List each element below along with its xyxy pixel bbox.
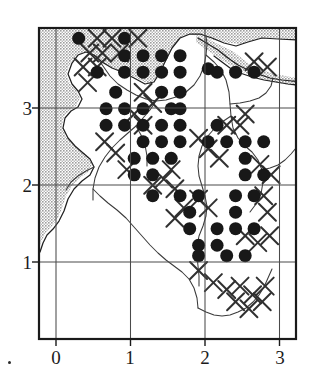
record-dot <box>220 135 233 148</box>
record-dot <box>220 249 233 262</box>
record-dot <box>128 168 141 181</box>
record-dot <box>118 119 131 132</box>
record-dot <box>229 222 242 235</box>
record-dot <box>137 119 150 132</box>
record-dot <box>174 189 187 202</box>
record-dot <box>229 189 242 202</box>
record-dot <box>239 249 252 262</box>
record-dot <box>257 135 270 148</box>
record-dot <box>211 222 224 235</box>
record-dot <box>192 189 205 202</box>
record-dot <box>137 49 150 62</box>
record-dot <box>248 189 261 202</box>
y-tick-label-1: 1 <box>12 253 32 272</box>
y-tick-label-2: 2 <box>12 176 32 195</box>
record-dot <box>257 168 270 181</box>
record-dot <box>229 66 242 79</box>
record-dot <box>155 86 168 99</box>
record-dot <box>137 66 150 79</box>
record-dot <box>202 135 215 148</box>
record-dot <box>239 135 252 148</box>
record-dot <box>174 66 187 79</box>
record-dot <box>174 119 187 132</box>
record-dot <box>174 86 187 99</box>
record-dot <box>118 102 131 115</box>
record-dot <box>155 135 168 148</box>
record-dot <box>239 152 252 165</box>
record-dot <box>72 32 85 45</box>
x-tick-label-3: 3 <box>268 348 292 367</box>
record-dot <box>248 222 261 235</box>
record-dot <box>137 135 150 148</box>
record-dot <box>174 102 187 115</box>
record-dot <box>128 152 141 165</box>
record-dot <box>192 249 205 262</box>
record-dot <box>174 49 187 62</box>
record-dot <box>146 168 159 181</box>
record-dot <box>211 239 224 252</box>
record-dot <box>100 102 113 115</box>
record-dot <box>248 66 261 79</box>
record-dot <box>183 206 196 219</box>
record-dot <box>174 135 187 148</box>
map-canvas <box>0 0 316 385</box>
record-dot <box>155 49 168 62</box>
record-dot <box>165 152 178 165</box>
x-tick-label-1: 1 <box>118 348 142 367</box>
record-dot <box>146 189 159 202</box>
record-dot <box>155 66 168 79</box>
record-dot <box>137 102 150 115</box>
record-dot <box>183 222 196 235</box>
record-dot <box>146 152 159 165</box>
distribution-map-figure: 0 1 2 3 3 2 1 <box>0 0 316 385</box>
y-tick-label-3: 3 <box>12 99 32 118</box>
record-dot <box>118 32 131 45</box>
x-tick-label-0: 0 <box>44 348 68 367</box>
x-tick-label-2: 2 <box>193 348 217 367</box>
record-dot <box>91 66 104 79</box>
record-dot <box>229 206 242 219</box>
record-dot <box>118 66 131 79</box>
record-dot <box>211 66 224 79</box>
record-dot <box>211 119 224 132</box>
corner-period-mark <box>8 361 11 364</box>
record-dot <box>109 86 122 99</box>
record-dot <box>100 119 113 132</box>
record-dot <box>118 49 131 62</box>
record-dot <box>155 119 168 132</box>
record-dot <box>239 168 252 181</box>
